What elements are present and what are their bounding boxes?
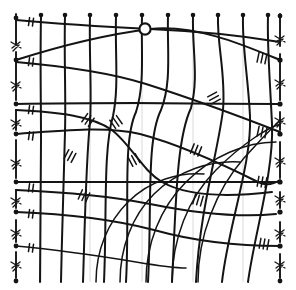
streamline	[40, 16, 41, 282]
boundary-dot	[278, 279, 283, 284]
equipotential	[16, 103, 280, 104]
flow-net-figure	[0, 0, 296, 290]
equipotential	[16, 62, 280, 132]
streamline	[83, 16, 91, 282]
left-boundary	[11, 14, 21, 283]
boundary-dot	[277, 209, 282, 214]
diagram-canvas	[0, 0, 296, 290]
fan-arc	[198, 120, 280, 282]
streamline	[61, 16, 65, 282]
equipotential	[16, 212, 280, 246]
boundary-dot	[14, 279, 19, 284]
equipotential	[16, 129, 280, 184]
ring-node-marker	[139, 23, 150, 34]
boundary-dot	[278, 14, 283, 19]
streamline	[104, 16, 116, 282]
top-boundary-dots	[39, 13, 271, 18]
fan-arc	[120, 162, 240, 282]
streamline	[126, 16, 142, 282]
right-boundary	[275, 14, 285, 284]
equipotential-group	[16, 20, 280, 268]
